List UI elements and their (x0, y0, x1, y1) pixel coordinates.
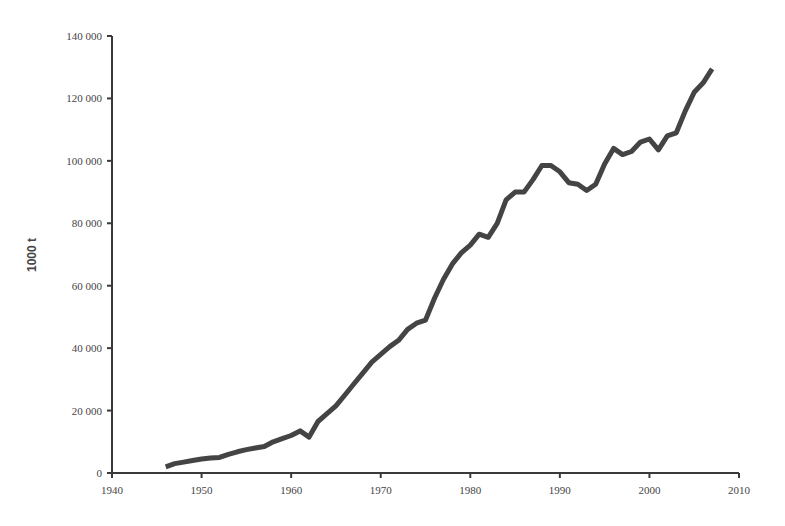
y-axis-label: 1000 t (25, 238, 39, 272)
y-tick-label: 0 (97, 467, 103, 479)
y-tick-label: 60 000 (72, 280, 103, 292)
y-tick-label: 140 000 (66, 30, 102, 42)
y-tick-label: 40 000 (72, 342, 103, 354)
x-tick-label: 1950 (191, 484, 214, 496)
y-tick-label: 80 000 (72, 217, 103, 229)
x-tick-label: 1970 (370, 484, 393, 496)
y-tick-label: 20 000 (72, 405, 103, 417)
x-tick-label: 1940 (101, 484, 124, 496)
x-axis: 19401950196019701980199020002010 (101, 473, 751, 496)
x-tick-label: 1990 (549, 484, 572, 496)
x-tick-label: 1960 (280, 484, 303, 496)
y-axis: 020 00040 00060 00080 000100 000120 0001… (66, 30, 112, 479)
data-line (166, 69, 712, 467)
y-tick-label: 100 000 (66, 155, 102, 167)
x-tick-label: 2000 (638, 484, 661, 496)
chart-canvas: 020 00040 00060 00080 000100 000120 0001… (0, 0, 785, 526)
x-tick-label: 1980 (459, 484, 482, 496)
line-chart: 020 00040 00060 00080 000100 000120 0001… (0, 0, 785, 526)
x-tick-label: 2010 (728, 484, 751, 496)
y-tick-label: 120 000 (66, 92, 102, 104)
